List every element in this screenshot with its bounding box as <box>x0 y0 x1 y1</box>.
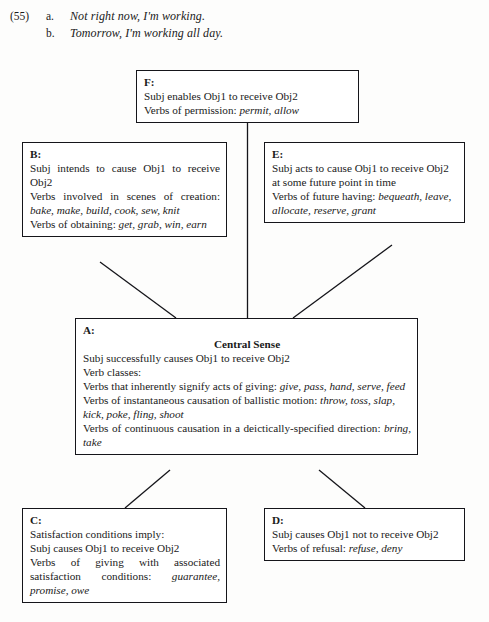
node-label-e: E: <box>272 147 458 161</box>
node-b-line2-verbs: bake, make, build, cook, sew, knit <box>30 204 180 216</box>
diagram-page: (55) a. Not right now, I'm working. b. T… <box>0 0 489 622</box>
node-label-f: F: <box>144 75 352 89</box>
node-c-line2: Subj causes Obj1 to receive Obj2 <box>30 541 220 555</box>
node-a-line4: Verbs of instantaneous causation of ball… <box>83 393 411 421</box>
node-b-line3-pre: Verbs of obtaining: <box>30 218 119 230</box>
node-a-line4-pre: Verbs of instantaneous causation of ball… <box>83 394 320 406</box>
node-f-line2: Verbs of permission: permit, allow <box>144 103 352 117</box>
node-c-line3: Verbs of giving with associated satisfac… <box>30 555 220 597</box>
node-b-line1: Subj intends to cause Obj1 to receive Ob… <box>30 161 220 189</box>
node-box-c[interactable]: C: Satisfaction conditions imply: Subj c… <box>22 508 227 603</box>
node-a-line3-verbs: give, pass, hand, serve, feed <box>280 380 406 392</box>
node-a-line5-pre: Verbs of continuous causation in a deict… <box>83 422 384 434</box>
node-b-line3: Verbs of obtaining: get, grab, win, earn <box>30 217 220 231</box>
edge-a-to-d <box>319 470 365 508</box>
edge-b-to-a <box>100 262 176 318</box>
edge-e-to-a <box>293 245 392 318</box>
node-label-a: A: <box>83 323 411 337</box>
node-b-line3-verbs: get, grab, win, earn <box>119 218 207 230</box>
node-f-line2-pre: Verbs of permission: <box>144 104 239 116</box>
node-box-f[interactable]: F: Subj enables Obj1 to receive Obj2 Ver… <box>136 70 359 123</box>
node-e-line1: Subj acts to cause Obj1 to receive Obj2 … <box>272 161 458 189</box>
node-a-line3: Verbs that inherently signify acts of gi… <box>83 379 411 393</box>
node-f-line2-verbs: permit, allow <box>239 104 299 116</box>
node-d-line2-verbs: refuse, deny <box>349 542 403 554</box>
node-c-line1: Satisfaction conditions imply: <box>30 527 220 541</box>
node-a-line3-pre: Verbs that inherently signify acts of gi… <box>83 380 280 392</box>
node-e-line2: Verbs of future having: bequeath, leave,… <box>272 189 458 217</box>
node-label-c: C: <box>30 513 220 527</box>
edge-a-to-c <box>125 470 170 508</box>
node-box-d[interactable]: D: Subj causes Obj1 not to receive Obj2 … <box>264 508 465 561</box>
node-box-b[interactable]: B: Subj intends to cause Obj1 to receive… <box>22 142 227 237</box>
node-box-e[interactable]: E: Subj acts to cause Obj1 to receive Ob… <box>264 142 465 223</box>
node-a-line5: Verbs of continuous causation in a deict… <box>83 421 411 449</box>
node-label-d: D: <box>272 513 458 527</box>
node-b-line2-pre: Verbs involved in scenes of creation: <box>30 190 220 202</box>
node-d-line2: Verbs of refusal: refuse, deny <box>272 541 458 555</box>
node-e-line2-pre: Verbs of future having: <box>272 190 378 202</box>
node-f-line1: Subj enables Obj1 to receive Obj2 <box>144 89 352 103</box>
node-d-line1: Subj causes Obj1 not to receive Obj2 <box>272 527 458 541</box>
node-label-b: B: <box>30 147 220 161</box>
node-d-line2-pre: Verbs of refusal: <box>272 542 349 554</box>
node-a-line1: Subj successfully causes Obj1 to receive… <box>83 351 411 365</box>
node-b-line2: Verbs involved in scenes of creation: ba… <box>30 189 220 217</box>
node-box-a[interactable]: A: Central Sense Subj successfully cause… <box>75 318 418 455</box>
node-a-line2: Verb classes: <box>83 365 411 379</box>
central-sense-title: Central Sense <box>83 337 411 351</box>
